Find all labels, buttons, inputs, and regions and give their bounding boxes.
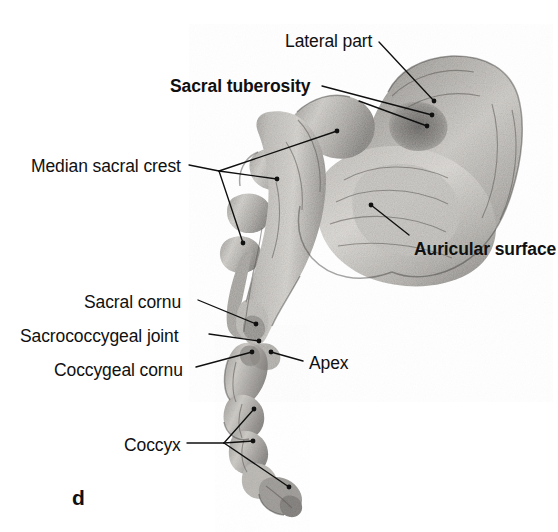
- label-sacral-tuberosity: Sacral tuberosity: [170, 78, 310, 96]
- leader-auricular-surface-endpoint: [369, 203, 374, 208]
- leader-coccyx-b1-endpoint: [252, 407, 257, 412]
- leader-sacral-cornu-endpoint: [254, 322, 259, 327]
- leader-sacral-tuberosity-endpoint: [430, 113, 435, 118]
- anatomy-figure-panel: Lateral partSacral tuberosityMedian sacr…: [0, 0, 558, 532]
- label-coccygeal-cornu: Coccygeal cornu: [54, 362, 183, 380]
- label-sacral-cornu: Sacral cornu: [84, 294, 181, 312]
- label-auricular-surface: Auricular surface: [414, 241, 556, 259]
- label-sacrococcygeal-joint: Sacrococcygeal joint: [20, 328, 179, 346]
- label-apex: Apex: [309, 355, 349, 373]
- leader-median-sacral-crest-b3-endpoint: [241, 241, 246, 246]
- leader-coccygeal-cornu-endpoint: [250, 350, 255, 355]
- panel-letter: d: [72, 487, 85, 508]
- label-lateral-part: Lateral part: [285, 33, 372, 51]
- leader-coccyx-b2-endpoint: [251, 439, 256, 444]
- leader-coccyx-b3-endpoint: [287, 485, 292, 490]
- leader-lateral-part-endpoint: [432, 99, 437, 104]
- label-coccyx: Coccyx: [124, 437, 181, 455]
- sacrum-body-shading: [220, 56, 522, 370]
- leader-median-sacral-crest: [189, 165, 219, 171]
- leader-median-sacral-crest-b1-endpoint: [335, 129, 340, 134]
- leader-sacral-tuberosity-b-endpoint: [425, 124, 430, 129]
- leader-sacrococcygeal-joint-endpoint: [257, 339, 262, 344]
- leader-apex-endpoint: [269, 350, 274, 355]
- leader-median-sacral-crest-b2-endpoint: [275, 177, 280, 182]
- label-median-sacral-crest: Median sacral crest: [31, 158, 181, 176]
